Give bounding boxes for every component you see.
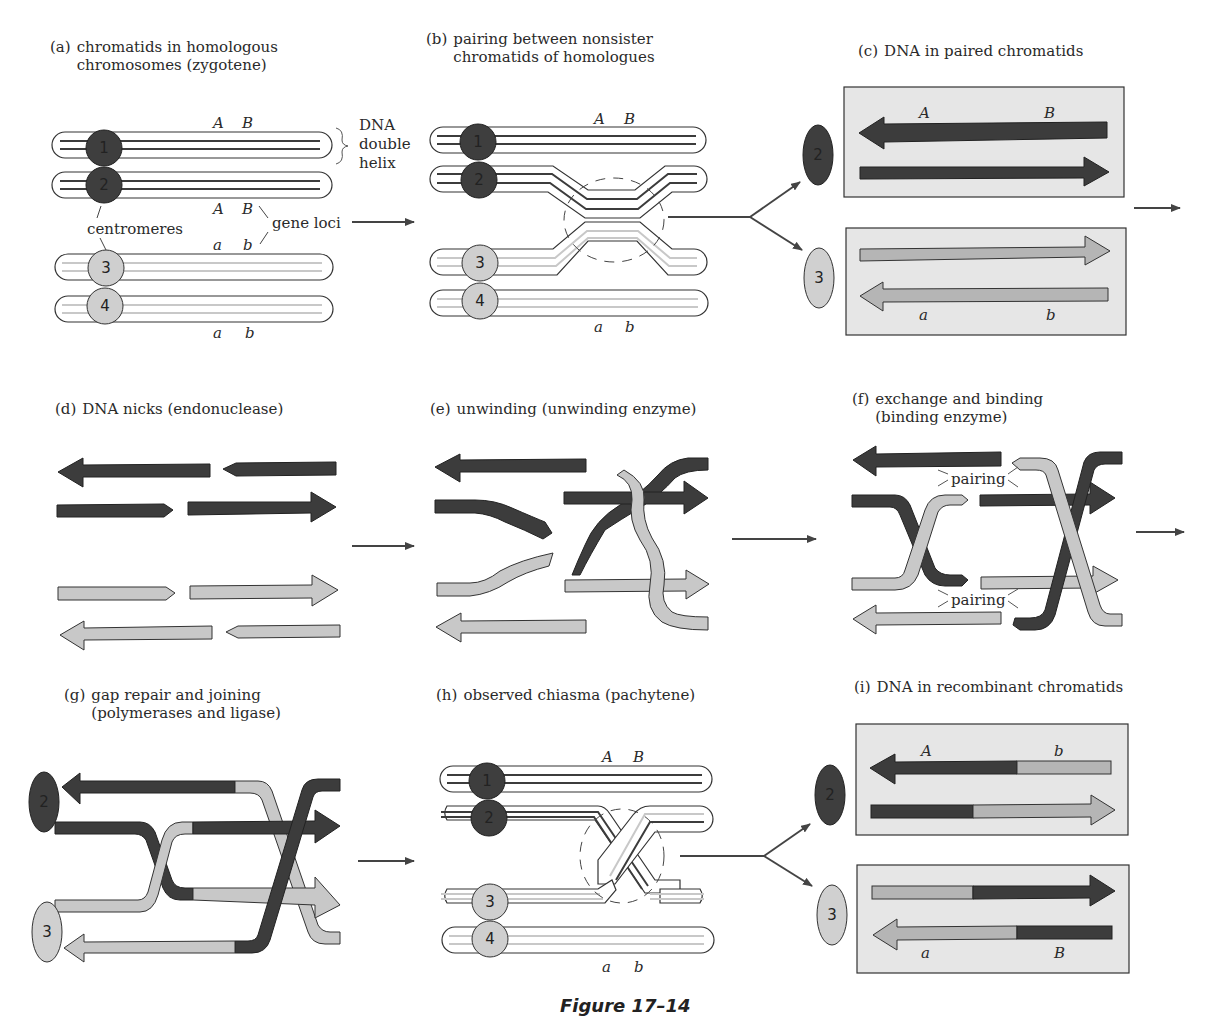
- svg-text:b: b: [1046, 306, 1056, 324]
- panel-c: 2 3 A B a b: [803, 87, 1180, 335]
- svg-text:3: 3: [827, 906, 837, 924]
- svg-text:2: 2: [484, 809, 494, 827]
- panel-d: [57, 458, 414, 650]
- figure-title: Figure 17–14: [560, 995, 691, 1016]
- panel-e: [435, 454, 816, 642]
- panel-h: 1 2 3 4 A B a b: [440, 748, 812, 976]
- panel-g: 2 3: [29, 772, 414, 962]
- svg-text:pairing: pairing: [951, 470, 1006, 488]
- svg-text:B: B: [1043, 104, 1055, 122]
- svg-text:pairing: pairing: [951, 591, 1006, 609]
- svg-text:b: b: [625, 318, 635, 336]
- svg-text:3: 3: [485, 893, 495, 911]
- svg-text:B: B: [241, 200, 253, 218]
- svg-text:a: a: [213, 236, 222, 254]
- svg-text:B: B: [632, 748, 644, 766]
- svg-text:A: A: [211, 114, 224, 132]
- diagram-canvas: 1 2 3 4 A B A B a b a b DNA double helix…: [0, 0, 1205, 1024]
- svg-text:b: b: [634, 958, 644, 976]
- svg-text:4: 4: [100, 297, 110, 315]
- svg-text:gene loci: gene loci: [272, 214, 341, 232]
- svg-text:2: 2: [39, 793, 49, 811]
- svg-text:2: 2: [474, 171, 484, 189]
- svg-text:3: 3: [42, 923, 52, 941]
- svg-text:1: 1: [99, 139, 109, 157]
- panel-f: pairing pairing: [852, 446, 1184, 634]
- svg-text:B: B: [1053, 944, 1065, 962]
- recombinant-box-bottom: [857, 865, 1129, 973]
- panel-a: 1 2 3 4 A B A B a b a b DNA double helix…: [52, 114, 414, 342]
- svg-text:A: A: [592, 110, 605, 128]
- panel-i: 2 3 A b a B: [815, 724, 1129, 973]
- svg-text:4: 4: [475, 292, 485, 310]
- arrow-b-to-c-bottom: [750, 217, 802, 250]
- svg-text:A: A: [917, 104, 930, 122]
- arrow-h-to-i-bottom: [764, 856, 812, 886]
- svg-text:centromeres: centromeres: [87, 220, 183, 238]
- svg-text:a: a: [213, 324, 222, 342]
- svg-text:a: a: [921, 944, 930, 962]
- svg-text:A: A: [211, 200, 224, 218]
- panel-b: 1 2 3 4 A B a b: [430, 110, 802, 336]
- svg-text:3: 3: [814, 269, 824, 287]
- svg-text:a: a: [594, 318, 603, 336]
- svg-text:helix: helix: [359, 154, 396, 172]
- svg-text:1: 1: [473, 133, 483, 151]
- arrow-h-to-i-top: [764, 824, 810, 856]
- paired-box-bottom: [846, 228, 1126, 335]
- svg-text:3: 3: [475, 254, 485, 272]
- svg-text:2: 2: [813, 146, 823, 164]
- svg-text:a: a: [602, 958, 611, 976]
- svg-text:B: B: [623, 110, 635, 128]
- arrow-b-to-c-top: [750, 182, 800, 217]
- svg-text:A: A: [919, 742, 932, 760]
- svg-text:b: b: [243, 236, 253, 254]
- svg-text:3: 3: [101, 259, 111, 277]
- svg-text:DNA: DNA: [359, 116, 395, 134]
- svg-text:double: double: [359, 135, 411, 153]
- svg-text:B: B: [241, 114, 253, 132]
- svg-text:A: A: [600, 748, 613, 766]
- svg-text:b: b: [1054, 742, 1064, 760]
- svg-text:b: b: [245, 324, 255, 342]
- svg-text:a: a: [919, 306, 928, 324]
- svg-text:2: 2: [99, 176, 109, 194]
- svg-text:2: 2: [825, 786, 835, 804]
- svg-text:4: 4: [485, 930, 495, 948]
- svg-text:1: 1: [482, 772, 492, 790]
